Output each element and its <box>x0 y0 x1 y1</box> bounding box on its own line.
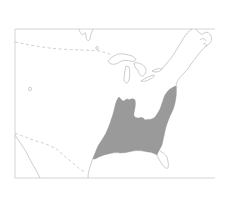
lake-michigan <box>124 66 130 83</box>
mexico-us-border <box>15 133 85 172</box>
gulf-st-lawrence-islands <box>200 39 206 47</box>
gulf-coast <box>88 158 93 178</box>
map-canvas <box>0 0 233 203</box>
lake-marker <box>29 87 32 91</box>
northern-inlet <box>79 29 93 40</box>
florida-peninsula <box>157 151 168 168</box>
map-frame-border <box>15 29 215 178</box>
st-lawrence-coast <box>162 29 192 69</box>
lake-marker <box>96 46 98 49</box>
canada-us-border <box>15 42 112 55</box>
range-map <box>0 0 233 203</box>
species-range <box>93 86 176 159</box>
lake-superior <box>108 54 136 65</box>
maritime-coast <box>176 29 212 84</box>
lake-huron <box>134 63 146 76</box>
lake-ontario <box>152 69 162 72</box>
